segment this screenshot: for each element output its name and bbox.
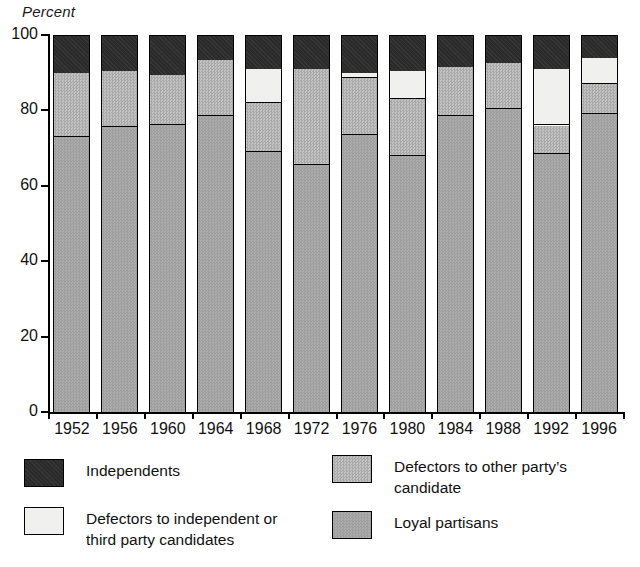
bar-segment-other-1992 <box>534 126 569 154</box>
bar-segment-independents-1964 <box>198 35 233 60</box>
bar-1988[interactable] <box>485 35 522 412</box>
y-tick-label-60: 60 <box>0 176 38 194</box>
bar-segment-loyal-1952 <box>54 137 89 412</box>
bar-segment-independents-1968 <box>246 35 281 69</box>
bar-1984[interactable] <box>437 35 474 412</box>
bar-segment-loyal-1980 <box>390 156 425 412</box>
bar-segment-third-1968 <box>246 69 281 103</box>
bar-segment-loyal-1960 <box>150 125 185 412</box>
bar-segment-third-1980 <box>390 71 425 99</box>
bar-1972[interactable] <box>293 35 330 412</box>
bar-segment-independents-1952 <box>54 35 89 73</box>
bar-segment-independents-1960 <box>150 35 185 75</box>
bar-1980[interactable] <box>389 35 426 412</box>
bar-segment-third-1992 <box>534 69 569 126</box>
bar-segment-independents-1992 <box>534 35 569 69</box>
x-tick-3 <box>192 412 194 419</box>
x-tick-2 <box>144 412 146 419</box>
x-tick-label-1972: 1972 <box>288 420 336 438</box>
legend-swatch-third <box>24 507 64 535</box>
bar-segment-loyal-1972 <box>294 165 329 412</box>
bar-segment-loyal-1976 <box>342 135 377 412</box>
bar-segment-loyal-1992 <box>534 154 569 412</box>
bar-segment-other-1964 <box>198 60 233 117</box>
bar-segment-other-1988 <box>486 63 521 108</box>
y-tick-label-40: 40 <box>0 251 38 269</box>
x-tick-label-1988: 1988 <box>479 420 527 438</box>
x-tick-1 <box>96 412 98 419</box>
x-tick-label-1964: 1964 <box>192 420 240 438</box>
legend-label-third: Defectors to independent or third party … <box>86 507 277 550</box>
y-tick-label-100: 100 <box>0 25 38 43</box>
bar-segment-other-1960 <box>150 75 185 126</box>
bar-segment-other-1956 <box>102 71 137 128</box>
bar-1968[interactable] <box>245 35 282 412</box>
bar-segment-independents-1956 <box>102 35 137 71</box>
legend-label-loyal: Loyal partisans <box>394 511 498 534</box>
bar-segment-third-1996 <box>582 58 617 84</box>
bar-segment-loyal-1956 <box>102 127 137 412</box>
x-tick-9 <box>479 412 481 419</box>
x-tick-label-1968: 1968 <box>240 420 288 438</box>
bar-1992[interactable] <box>533 35 570 412</box>
bar-segment-independents-1984 <box>438 35 473 67</box>
y-tick-label-20: 20 <box>0 327 38 345</box>
x-tick-11 <box>575 412 577 419</box>
legend-swatch-independents <box>24 459 64 487</box>
bar-segment-other-1976 <box>342 78 377 135</box>
x-tick-label-1976: 1976 <box>335 420 383 438</box>
x-tick-label-1984: 1984 <box>431 420 479 438</box>
x-tick-8 <box>431 412 433 419</box>
bar-segment-loyal-1964 <box>198 116 233 412</box>
x-tick-6 <box>336 412 338 419</box>
plot-area <box>48 35 623 412</box>
bar-segment-loyal-1968 <box>246 152 281 412</box>
y-tick-label-0: 0 <box>0 402 38 420</box>
bar-segment-independents-1988 <box>486 35 521 63</box>
bar-segment-loyal-1988 <box>486 109 521 412</box>
bar-segment-other-1984 <box>438 67 473 116</box>
bar-segment-independents-1976 <box>342 35 377 73</box>
bar-segment-loyal-1984 <box>438 116 473 412</box>
x-tick-label-1952: 1952 <box>48 420 96 438</box>
legend-label-other: Defectors to other party’s candidate <box>394 455 567 498</box>
bar-segment-independents-1972 <box>294 35 329 69</box>
x-tick-12 <box>623 412 625 419</box>
legend-item-other[interactable]: Defectors to other party’s candidate <box>332 455 567 498</box>
bar-segment-other-1968 <box>246 103 281 152</box>
y-tick-label-80: 80 <box>0 100 38 118</box>
bar-1976[interactable] <box>341 35 378 412</box>
legend-swatch-loyal <box>332 511 372 539</box>
x-tick-5 <box>288 412 290 419</box>
bar-1960[interactable] <box>149 35 186 412</box>
x-tick-0 <box>48 412 50 419</box>
legend-item-independents[interactable]: Independents <box>24 459 180 487</box>
bar-segment-other-1980 <box>390 99 425 156</box>
bar-segment-loyal-1996 <box>582 114 617 412</box>
bar-segment-independents-1980 <box>390 35 425 71</box>
legend-item-third[interactable]: Defectors to independent or third party … <box>24 507 277 550</box>
bar-1964[interactable] <box>197 35 234 412</box>
bar-segment-independents-1996 <box>582 35 617 58</box>
y-axis-title: Percent <box>22 3 75 20</box>
x-tick-label-1980: 1980 <box>383 420 431 438</box>
x-tick-label-1960: 1960 <box>144 420 192 438</box>
legend-swatch-other <box>332 455 372 483</box>
bar-1952[interactable] <box>53 35 90 412</box>
bar-1956[interactable] <box>101 35 138 412</box>
x-tick-10 <box>527 412 529 419</box>
legend-label-independents: Independents <box>86 459 180 482</box>
chart-legend: IndependentsDefectors to other party’s c… <box>0 455 640 567</box>
x-tick-label-1956: 1956 <box>96 420 144 438</box>
bar-segment-third-1976 <box>342 73 377 79</box>
bar-segment-other-1996 <box>582 84 617 114</box>
bar-segment-other-1972 <box>294 69 329 165</box>
x-tick-4 <box>240 412 242 419</box>
bar-segment-other-1952 <box>54 73 89 137</box>
chart-figure: Percent 020406080100 1952195619601964196… <box>0 0 640 567</box>
x-tick-label-1996: 1996 <box>575 420 623 438</box>
bar-1996[interactable] <box>581 35 618 412</box>
x-tick-7 <box>383 412 385 419</box>
x-tick-label-1992: 1992 <box>527 420 575 438</box>
legend-item-loyal[interactable]: Loyal partisans <box>332 511 498 539</box>
